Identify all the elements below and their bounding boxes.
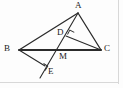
vertex-label-D: D <box>57 28 64 37</box>
vertex-label-M: M <box>59 52 67 61</box>
geometry-figure: A B C D M E <box>0 0 123 88</box>
segment-A-to-E-extended <box>40 13 78 78</box>
segment-AC <box>78 13 101 50</box>
vertex-label-E: E <box>48 67 54 76</box>
frame-bottom-edge <box>0 82 119 83</box>
segments-group <box>19 13 101 78</box>
frame-right-edge <box>118 0 119 84</box>
segment-DC <box>66 36 101 50</box>
vertex-label-A: A <box>75 1 82 10</box>
segment-BE <box>19 50 45 66</box>
vertex-label-B: B <box>4 44 10 53</box>
right-angle-at-D <box>68 30 75 37</box>
vertex-label-C: C <box>104 44 110 53</box>
